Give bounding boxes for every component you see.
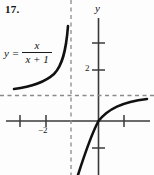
graph-figure: 17. y = x x + 1 y −2 2 (0, 0, 154, 175)
curve-left-branch (14, 26, 68, 89)
coordinate-plane (0, 0, 154, 175)
curve-right-branch (78, 99, 147, 175)
